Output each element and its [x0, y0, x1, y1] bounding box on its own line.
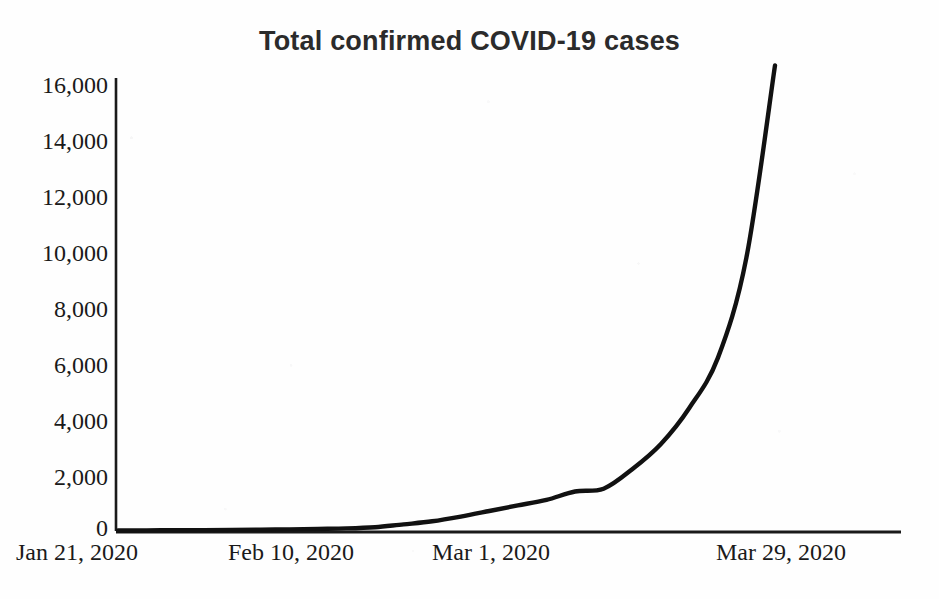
chart-page: Total confirmed COVID-19 cases 16,000 14…: [0, 0, 939, 599]
plot-area: [0, 0, 939, 599]
data-series-line: [118, 66, 775, 531]
